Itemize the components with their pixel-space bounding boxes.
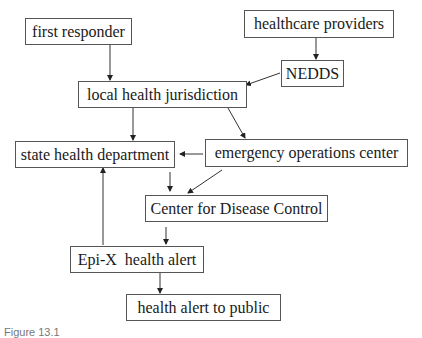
node-label: Epi-X health alert — [78, 252, 197, 268]
node-state-health-department: state health department — [15, 141, 175, 168]
node-first-responder: first responder — [25, 18, 132, 45]
node-center-for-disease-control: Center for Disease Control — [145, 195, 328, 222]
node-health-alert-to-public: health alert to public — [126, 294, 281, 321]
node-label: healthcare providers — [254, 16, 384, 32]
node-label: local health jurisdiction — [87, 87, 238, 103]
arrow-local-to-eoc — [228, 108, 245, 138]
node-emergency-operations-center: emergency operations center — [205, 139, 408, 167]
node-label: health alert to public — [138, 300, 270, 316]
node-label: first responder — [32, 24, 125, 40]
node-healthcare-providers: healthcare providers — [244, 10, 394, 38]
arrow-eoc-to-cdc — [188, 170, 222, 193]
node-local-health-jurisdiction: local health jurisdiction — [78, 81, 247, 108]
node-label: state health department — [21, 147, 169, 163]
node-label: Center for Disease Control — [151, 201, 323, 217]
figure-caption: Figure 13.1 — [4, 327, 60, 338]
node-epi-x-health-alert: Epi-X health alert — [70, 246, 204, 273]
node-label: NEDDS — [286, 66, 339, 82]
node-nedds: NEDDS — [281, 60, 344, 87]
node-label: emergency operations center — [215, 145, 399, 161]
arrow-nedds-to-local — [246, 73, 280, 85]
